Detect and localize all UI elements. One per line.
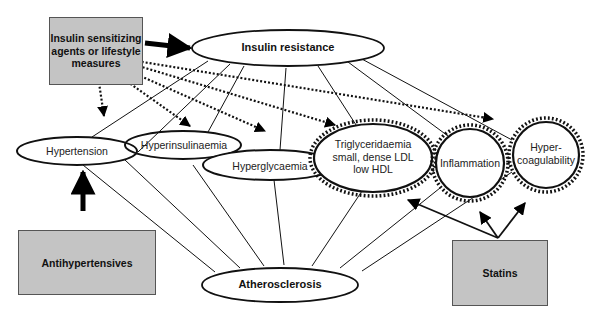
hypertension-label: Hypertension [27, 145, 127, 158]
insulin-resistance-label: Insulin resistance [200, 41, 376, 54]
insulin-sensitizing-label: Insulin sensitizing agents or lifestyle … [50, 32, 142, 70]
dyslipidaemia-line-1: Triglyceridaemia [318, 138, 428, 151]
dyslipidaemia-label: Triglyceridaemia small, dense LDL low HD… [318, 138, 428, 176]
insulin-sensitizing-box: Insulin sensitizing agents or lifestyle … [49, 17, 143, 85]
hypercoagulability-line-2: coagulability [506, 154, 586, 167]
hypercoagulability-line-1: Hyper- [506, 141, 586, 154]
statins-box: Statins [452, 240, 548, 306]
dyslipidaemia-line-2: small, dense LDL [318, 151, 428, 164]
bold-arrow-to-ir [145, 43, 190, 48]
dotted-arrows [96, 58, 493, 131]
inflammation-label: Inflammation [430, 157, 510, 170]
hypercoagulability-label: Hyper- coagulability [506, 141, 586, 166]
statins-label: Statins [482, 267, 517, 279]
antihypertensives-label: Antihypertensives [41, 257, 132, 269]
hyperglycaemia-label: Hyperglycaemia [220, 160, 320, 173]
dyslipidaemia-line-3: low HDL [318, 163, 428, 176]
hyperinsulinaemia-label: Hyperinsulinaemia [130, 139, 238, 152]
statins-arrows [408, 200, 525, 238]
antihypertensives-box: Antihypertensives [18, 230, 156, 295]
atherosclerosis-label: Atherosclerosis [220, 278, 340, 291]
